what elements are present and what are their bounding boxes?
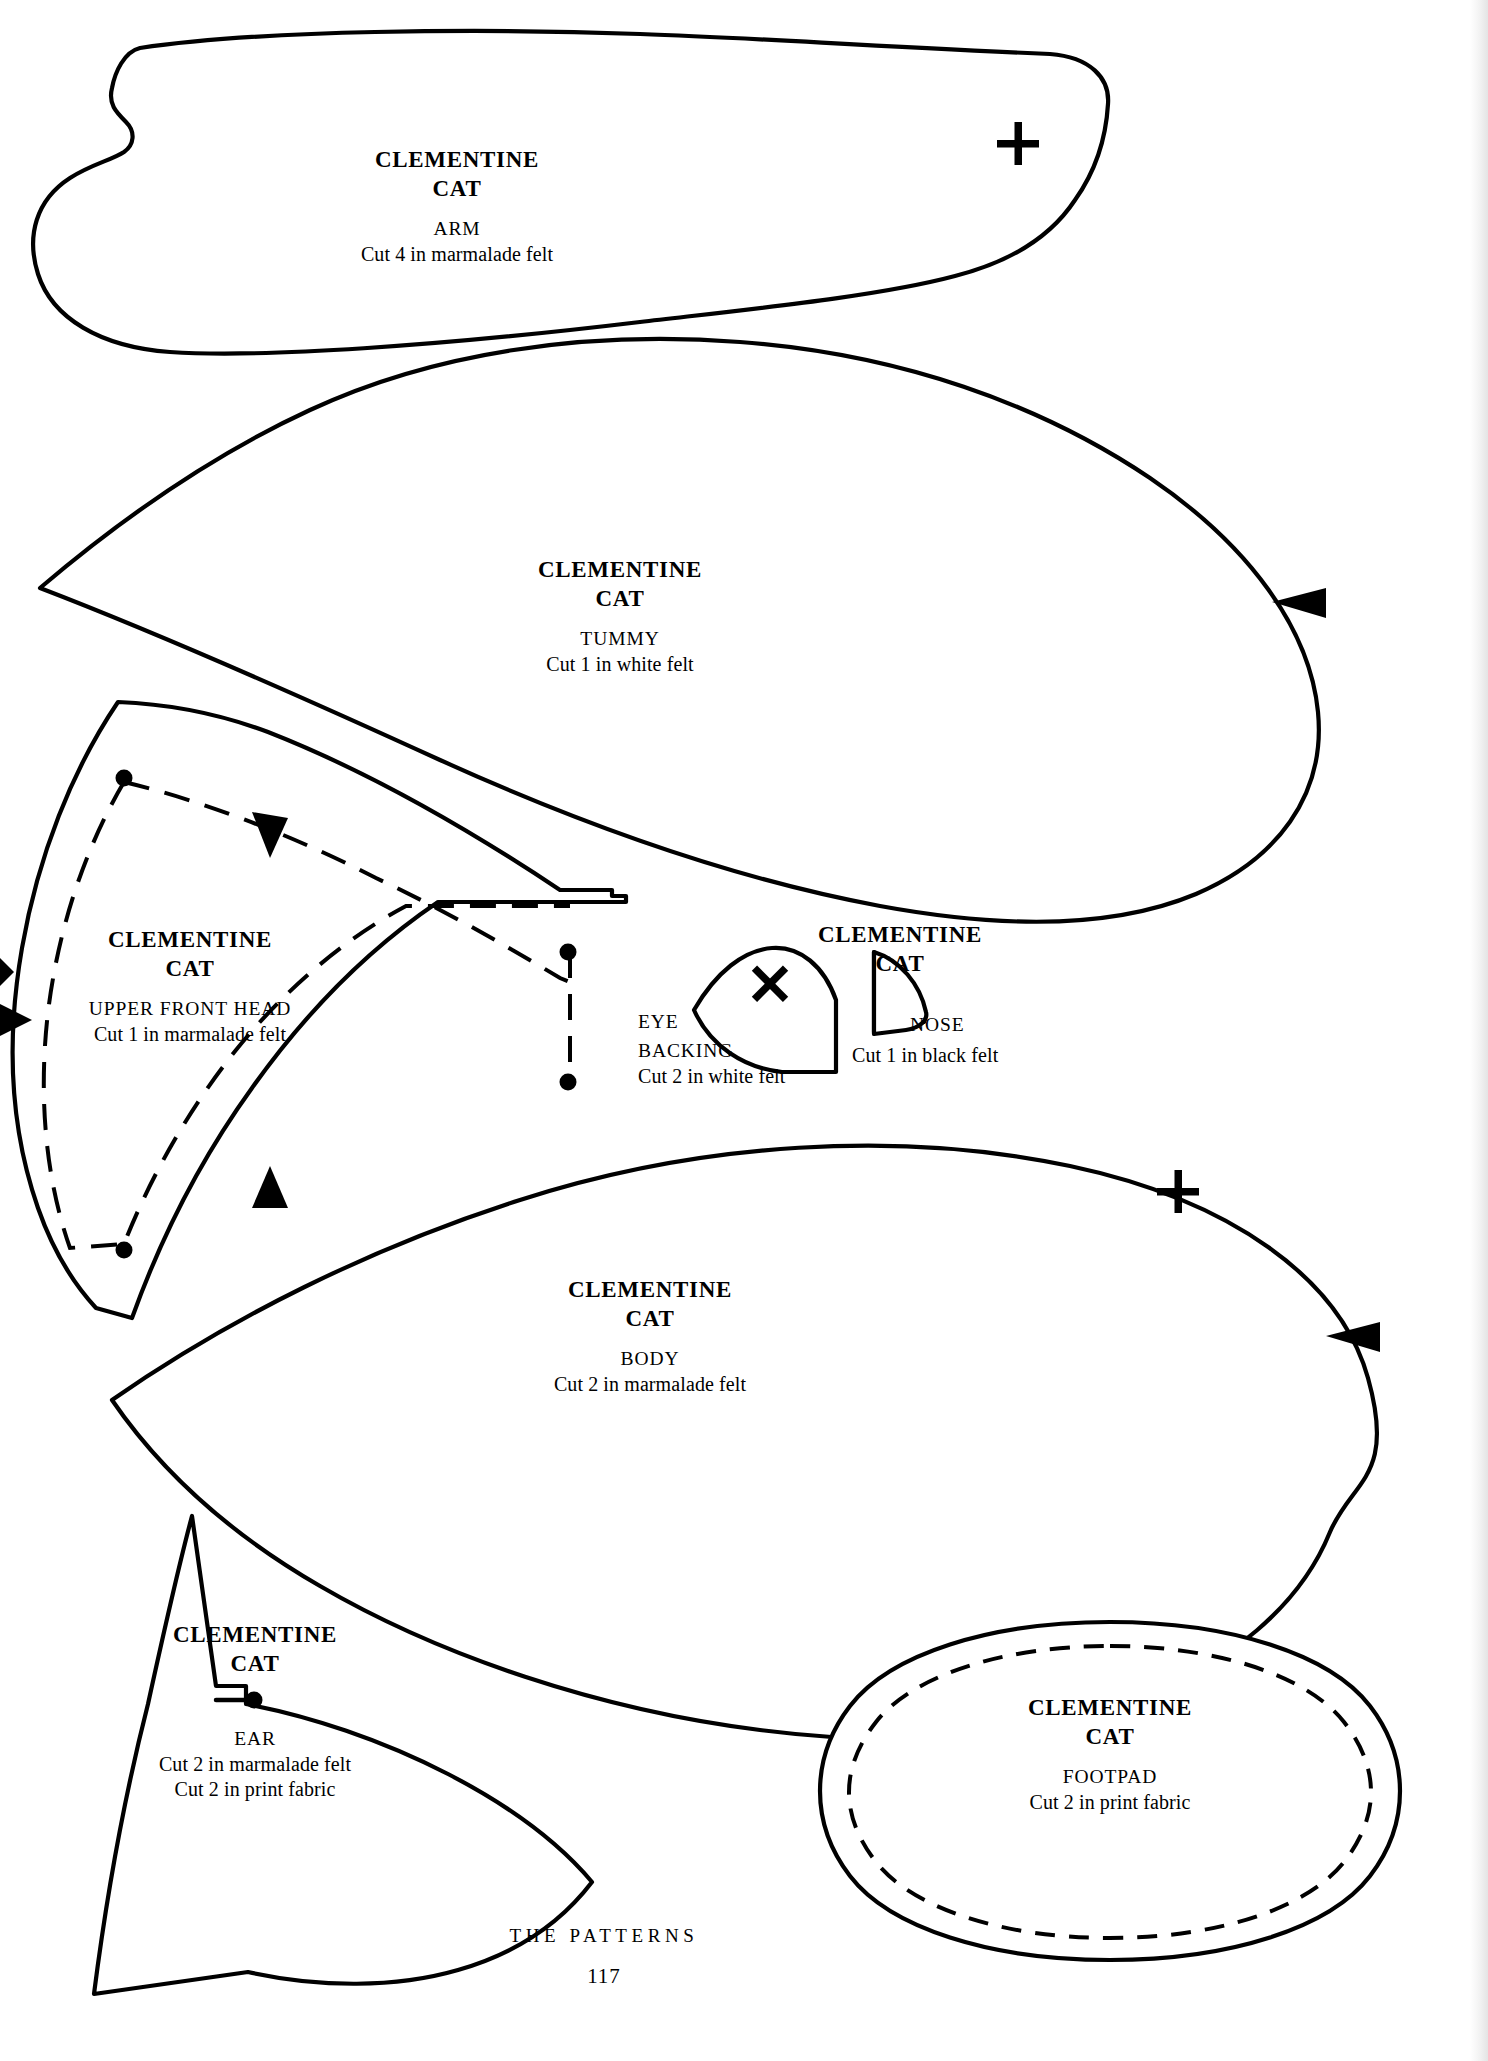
label-nose-title: CLEMENTINE CAT [690, 920, 1110, 979]
label-ear: CLEMENTINE CAT EAR Cut 2 in marmalade fe… [45, 1620, 465, 1803]
label-body-part: BODY [440, 1347, 860, 1372]
label-eye-backing-part-line1: EYE [638, 1010, 898, 1035]
label-tummy-part: TUMMY [410, 627, 830, 652]
page-footer: THE PATTERNS 117 [394, 1925, 814, 1989]
label-arm-title: CLEMENTINE CAT [247, 145, 667, 204]
upper-front-head-notch-arrow-lower [252, 1166, 288, 1208]
footer-section-name: THE PATTERNS [394, 1925, 814, 1947]
label-nose-part-block: NOSE [910, 1013, 1170, 1038]
label-footpad-cut-1: Cut 2 in print fabric [900, 1790, 1320, 1816]
label-nose-cut-block: Cut 1 in black felt [852, 1043, 1132, 1069]
label-nose-title-block: CLEMENTINE CAT [690, 920, 1110, 979]
page-gutter-shadow [1470, 0, 1488, 2061]
label-upper-front-head-part: UPPER FRONT HEAD [0, 997, 400, 1022]
label-upper-front-head: CLEMENTINE CAT UPPER FRONT HEAD Cut 1 in… [0, 925, 400, 1047]
label-ear-cut-1: Cut 2 in marmalade felt [45, 1752, 465, 1778]
label-body-title: CLEMENTINE CAT [440, 1275, 860, 1334]
label-arm-cut-1: Cut 4 in marmalade felt [247, 242, 667, 268]
label-ear-title: CLEMENTINE CAT [45, 1620, 465, 1679]
label-footpad: CLEMENTINE CAT FOOTPAD Cut 2 in print fa… [900, 1693, 1320, 1815]
label-tummy: CLEMENTINE CAT TUMMY Cut 1 in white felt [410, 555, 830, 677]
label-upper-front-head-title: CLEMENTINE CAT [0, 925, 400, 984]
label-body: CLEMENTINE CAT BODY Cut 2 in marmalade f… [440, 1275, 860, 1397]
label-footpad-part: FOOTPAD [900, 1765, 1320, 1790]
label-tummy-cut-1: Cut 1 in white felt [410, 652, 830, 678]
pattern-page: CLEMENTINE CAT ARM Cut 4 in marmalade fe… [0, 0, 1488, 2061]
footer-page-number: 117 [394, 1964, 814, 1989]
label-ear-cut-2: Cut 2 in print fabric [45, 1777, 465, 1803]
label-arm-part: ARM [247, 217, 667, 242]
label-tummy-title: CLEMENTINE CAT [410, 555, 830, 614]
label-footpad-title: CLEMENTINE CAT [900, 1693, 1320, 1752]
label-body-cut-1: Cut 2 in marmalade felt [440, 1372, 860, 1398]
upper-front-head-dot-top [116, 770, 133, 787]
label-upper-front-head-cut-1: Cut 1 in marmalade felt [0, 1022, 400, 1048]
label-ear-part: EAR [45, 1727, 465, 1752]
label-nose-part: NOSE [910, 1013, 1170, 1038]
upper-front-head-dot-right-lower [560, 1074, 577, 1091]
upper-front-head-dot-right-upper [560, 944, 577, 961]
label-arm: CLEMENTINE CAT ARM Cut 4 in marmalade fe… [247, 145, 667, 267]
label-nose-cut-1: Cut 1 in black felt [852, 1043, 1132, 1069]
upper-front-head-dot-bottom [116, 1242, 133, 1259]
